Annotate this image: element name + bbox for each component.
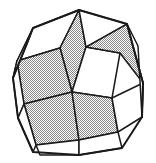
rhombic-zonohedron-figure	[0, 0, 156, 163]
polyhedron-diagram	[0, 0, 156, 163]
